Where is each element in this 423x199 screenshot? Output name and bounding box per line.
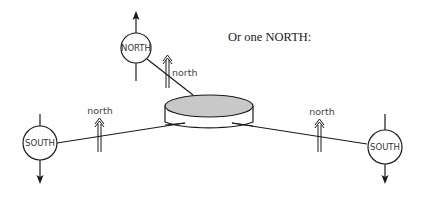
flow-label-right: north	[309, 106, 335, 117]
south-node-right[interactable]: SOUTH	[368, 114, 402, 184]
connector-left	[57, 123, 185, 143]
double-arrow-up-icon	[163, 55, 172, 64]
central-cylinder[interactable]	[165, 95, 253, 128]
south-left-label: SOUTH	[25, 138, 55, 148]
double-arrow-up-icon	[315, 119, 324, 128]
north-node-label: NORTH	[121, 43, 151, 53]
south-node-left[interactable]: SOUTH	[23, 114, 57, 184]
double-arrow-up-icon	[95, 118, 104, 127]
diagram-canvas: Or one NORTH: NORTH SOUTH SOUTH	[0, 0, 423, 199]
diagram-caption: Or one NORTH:	[228, 30, 311, 44]
cylinder-top	[165, 95, 253, 117]
north-node[interactable]: NORTH	[121, 11, 151, 81]
south-right-label: SOUTH	[370, 142, 400, 152]
flow-label-left: north	[87, 105, 113, 116]
flow-label-north-node: north	[172, 67, 198, 78]
flow-right: north	[309, 106, 335, 152]
flow-left: north	[87, 105, 113, 152]
flow-north-node: north	[163, 55, 198, 88]
